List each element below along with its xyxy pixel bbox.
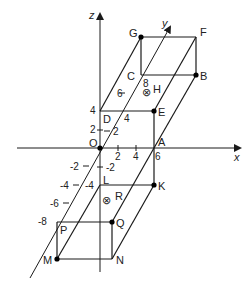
tick-y-neg8: -8 (38, 216, 47, 227)
label-G: G (129, 27, 138, 39)
tick-y-6: 6 (117, 88, 123, 99)
label-R: R (115, 190, 123, 202)
label-E: E (158, 106, 165, 118)
label-B: B (200, 70, 207, 82)
label-Q: Q (116, 217, 125, 229)
tick-y-neg6: -6 (50, 198, 59, 209)
point-G (138, 34, 143, 39)
point-E (151, 108, 156, 113)
label-L: L (103, 174, 109, 186)
tick-y-2: 2 (113, 126, 119, 137)
label-C: C (127, 70, 135, 82)
label-K: K (158, 180, 166, 192)
tick-x-2: 2 (115, 151, 121, 162)
point-K (151, 182, 156, 187)
label-H: H (153, 83, 161, 95)
point-B (193, 72, 198, 77)
label-A: A (158, 136, 166, 148)
point-Q (109, 219, 114, 224)
tick-x-6: 6 (155, 151, 161, 162)
tick-y-neg2: -2 (70, 161, 79, 172)
tick-z-neg2: -2 (106, 162, 115, 173)
label-N: N (116, 254, 124, 266)
point-O (97, 145, 102, 150)
tick-z-neg4: -4 (85, 180, 94, 191)
x-axis-label: x (233, 151, 240, 163)
tick-x-4: 4 (133, 151, 139, 162)
tick-z-2: 2 (90, 124, 96, 135)
cross-marker-R: ⊗ (102, 194, 111, 206)
y-axis-label: y (161, 17, 169, 29)
tick-y-neg4: -4 (60, 180, 69, 191)
tick-y-8: 8 (143, 78, 149, 89)
point-M (54, 256, 59, 261)
label-O: O (89, 137, 98, 149)
label-M: M (43, 254, 52, 266)
z-axis-label: z (88, 9, 95, 21)
label-D: D (103, 113, 111, 125)
tick-y-4: 4 (124, 113, 130, 124)
label-P: P (60, 224, 67, 236)
coordinate-diagram: x y z G F C B H D E O A L K R P Q M N ⊗ … (0, 0, 249, 285)
tick-z-4: 4 (90, 105, 96, 116)
label-F: F (200, 26, 207, 38)
